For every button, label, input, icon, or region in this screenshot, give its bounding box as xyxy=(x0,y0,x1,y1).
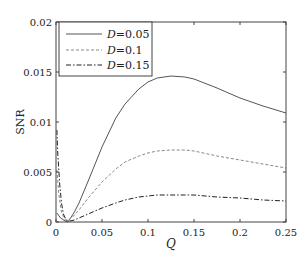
y-tick-label: 0.015 xyxy=(23,67,52,78)
legend: D=0.05D=0.1D=0.15 xyxy=(59,22,152,76)
series-line-2 xyxy=(57,130,286,221)
x-tick-label: 0.15 xyxy=(183,227,205,238)
x-axis-label: Q xyxy=(166,237,176,251)
x-tick-label: 0.1 xyxy=(140,227,156,238)
legend-label: D=0.15 xyxy=(106,59,150,72)
plot-curves xyxy=(57,76,286,222)
y-tick-label: 0.005 xyxy=(23,167,52,178)
x-tick-label: 0.2 xyxy=(232,227,248,238)
series-line-0 xyxy=(57,76,286,222)
snr-vs-q-chart: 00.050.10.150.20.25 00.0050.010.0150.02 … xyxy=(0,0,308,263)
y-axis-label: SNR xyxy=(14,109,27,135)
y-tick-label: 0.02 xyxy=(30,17,52,28)
legend-label: D=0.05 xyxy=(106,28,150,41)
x-tick-label: 0.25 xyxy=(275,227,297,238)
y-tick-label: 0 xyxy=(46,217,52,228)
series-line-1 xyxy=(57,150,286,221)
y-tick-label: 0.01 xyxy=(30,117,52,128)
x-tick-label: 0.05 xyxy=(91,227,113,238)
x-tick-label: 0 xyxy=(53,227,59,238)
legend-label: D=0.1 xyxy=(106,44,143,57)
